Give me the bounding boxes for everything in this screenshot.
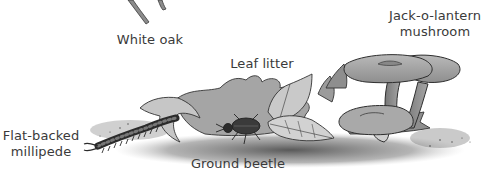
label-white-oak: White oak	[100, 32, 200, 48]
label-millipede-line2: millipede	[0, 144, 82, 160]
label-jack-o-lantern-mushroom: Jack-o-lantern mushroom	[380, 8, 482, 40]
forest-floor-illustration: White oak Leaf litter Jack-o-lantern mus…	[0, 0, 482, 180]
label-ground-beetle: Ground beetle	[182, 156, 294, 172]
label-leaf-litter: Leaf litter	[212, 56, 312, 72]
label-jack-o-lantern-line1: Jack-o-lantern	[380, 8, 482, 24]
label-flat-backed-millipede: Flat-backed millipede	[0, 128, 82, 160]
white-oak-twig-icon	[128, 0, 166, 24]
label-millipede-line1: Flat-backed	[0, 128, 82, 144]
label-jack-o-lantern-line2: mushroom	[380, 24, 482, 40]
